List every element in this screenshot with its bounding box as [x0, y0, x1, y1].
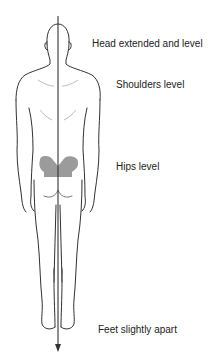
label-shoulders: Shoulders level [116, 79, 184, 91]
label-hips: Hips level [116, 161, 159, 173]
head-outline [47, 24, 100, 100]
label-feet: Feet slightly apart [98, 324, 177, 336]
posture-figure [0, 0, 219, 362]
arrow-down-icon [55, 344, 61, 352]
pelvis-highlight [39, 156, 78, 177]
label-head: Head extended and level [92, 38, 203, 50]
